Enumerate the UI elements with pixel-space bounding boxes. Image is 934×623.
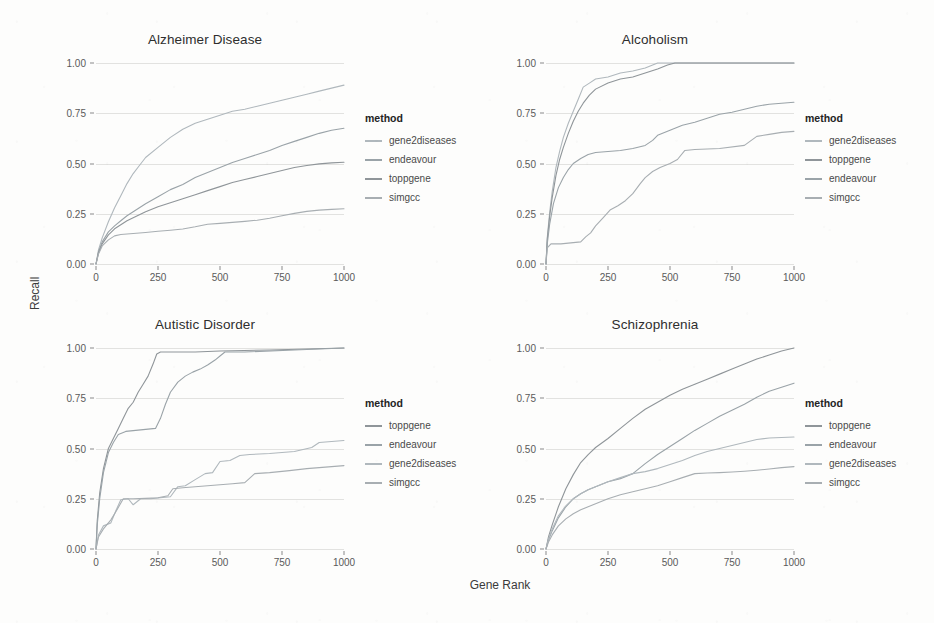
legend-item-gene2diseases[interactable]: gene2diseases [805, 131, 896, 150]
ytick-label: 0.00 [498, 544, 536, 555]
legend-label: endeavour [829, 173, 876, 184]
legend-key-icon [805, 159, 822, 161]
ytick-label: 1.00 [498, 58, 536, 69]
xtick-label: 0 [543, 557, 549, 568]
tickmark-y [90, 348, 94, 349]
tickmark-x [96, 551, 97, 555]
ytick-label: 0.75 [48, 108, 86, 119]
legend-item-endeavour[interactable]: endeavour [365, 150, 456, 169]
tickmark-x [344, 551, 345, 555]
ytick-label: 0.25 [498, 493, 536, 504]
tickmark-y [540, 549, 544, 550]
xtick-label: 0 [93, 557, 99, 568]
ytick-label: 0.00 [48, 259, 86, 270]
legend-item-gene2diseases[interactable]: gene2diseases [365, 454, 456, 473]
legend-item-gene2diseases[interactable]: gene2diseases [805, 454, 896, 473]
tickmark-x [546, 551, 547, 555]
tickmark-x [282, 551, 283, 555]
axis-title-x: Gene Rank [420, 578, 580, 592]
series-line-endeavour [546, 383, 794, 549]
legend-item-simgcc[interactable]: simgcc [805, 473, 896, 492]
legend-title: method [365, 112, 456, 124]
legend-item-endeavour[interactable]: endeavour [365, 435, 456, 454]
xtick-label: 500 [662, 272, 679, 283]
legend-key-icon [365, 482, 382, 484]
legend-item-toppgene[interactable]: toppgene [805, 416, 896, 435]
legend-panel-3: methodtoppgeneendeavourgene2diseasessimg… [805, 397, 896, 492]
legend-panel-1: methodgene2diseasestoppgeneendeavoursimg… [805, 112, 896, 207]
legend-label: toppgene [389, 173, 431, 184]
gridline-y [96, 113, 344, 114]
series-line-simgcc [546, 467, 794, 549]
xtick-label: 500 [212, 272, 229, 283]
ytick-label: 0.75 [48, 393, 86, 404]
series-line-endeavour [96, 128, 344, 264]
legend-key-icon [365, 444, 382, 446]
xtick-label: 750 [724, 557, 741, 568]
legend-label: endeavour [389, 439, 436, 450]
legend-item-simgcc[interactable]: simgcc [365, 188, 456, 207]
tickmark-x [158, 551, 159, 555]
legend-key-icon [365, 463, 382, 465]
tickmark-y [540, 113, 544, 114]
gridline-y [546, 264, 794, 265]
series-line-simgcc [96, 466, 344, 549]
panel-title-3: Schizophrenia [490, 317, 820, 332]
tickmark-x [794, 266, 795, 270]
gridline-y [546, 113, 794, 114]
legend-item-toppgene[interactable]: toppgene [365, 169, 456, 188]
gridline-y [96, 214, 344, 215]
ytick-label: 1.00 [48, 343, 86, 354]
xtick-label: 1000 [333, 272, 355, 283]
legend-item-simgcc[interactable]: simgcc [365, 473, 456, 492]
axis-title-y: Recall [28, 277, 42, 310]
curves-panel-0 [0, 0, 934, 623]
curves-panel-1 [0, 0, 934, 623]
xtick-label: 0 [93, 272, 99, 283]
legend-label: toppgene [389, 420, 431, 431]
ytick-label: 0.50 [498, 158, 536, 169]
legend-item-gene2diseases[interactable]: gene2diseases [365, 131, 456, 150]
ytick-label: 1.00 [48, 58, 86, 69]
gridline-y [96, 348, 344, 349]
legend-item-endeavour[interactable]: endeavour [805, 169, 896, 188]
ytick-label: 0.00 [48, 544, 86, 555]
tickmark-y [90, 63, 94, 64]
ytick-label: 1.00 [498, 343, 536, 354]
legend-key-icon [365, 178, 382, 180]
tickmark-y [90, 264, 94, 265]
tickmark-y [540, 398, 544, 399]
legend-item-simgcc[interactable]: simgcc [805, 188, 896, 207]
legend-item-toppgene[interactable]: toppgene [365, 416, 456, 435]
xtick-label: 250 [150, 557, 167, 568]
legend-label: simgcc [389, 477, 420, 488]
legend-title: method [805, 112, 896, 124]
gridline-y [546, 63, 794, 64]
legend-key-icon [805, 425, 822, 427]
gridline-y [96, 549, 344, 550]
legend-key-icon [805, 178, 822, 180]
curves-panel-3 [0, 0, 934, 623]
legend-key-icon [805, 444, 822, 446]
legend-label: gene2diseases [389, 458, 456, 469]
xtick-label: 0 [543, 272, 549, 283]
tickmark-x [220, 266, 221, 270]
gridline-y [96, 164, 344, 165]
tickmark-x [732, 551, 733, 555]
gridline-y [96, 499, 344, 500]
ytick-label: 0.50 [48, 443, 86, 454]
tickmark-x [608, 266, 609, 270]
tickmark-x [220, 551, 221, 555]
legend-label: simgcc [829, 192, 860, 203]
xtick-label: 1000 [783, 557, 805, 568]
legend-label: gene2diseases [829, 135, 896, 146]
tickmark-y [90, 113, 94, 114]
tickmark-y [540, 264, 544, 265]
legend-key-icon [805, 482, 822, 484]
legend-item-endeavour[interactable]: endeavour [805, 435, 896, 454]
legend-key-icon [805, 140, 822, 142]
xtick-label: 1000 [783, 272, 805, 283]
gridline-y [546, 449, 794, 450]
legend-item-toppgene[interactable]: toppgene [805, 150, 896, 169]
legend-key-icon [805, 197, 822, 199]
